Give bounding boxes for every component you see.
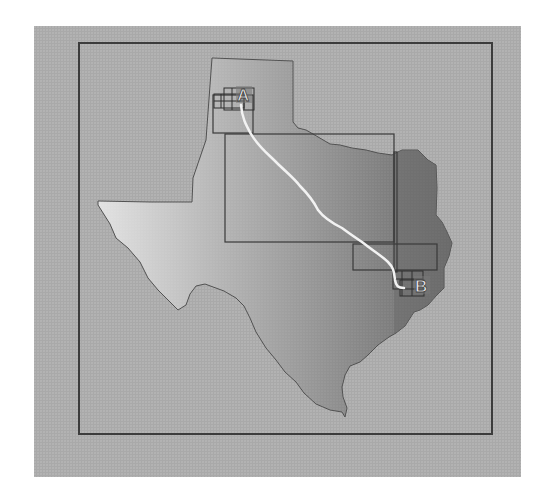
- marker-b[interactable]: B: [414, 276, 430, 296]
- map-canvas[interactable]: A B: [0, 0, 551, 500]
- marker-b-label: B: [415, 277, 427, 296]
- marker-a[interactable]: A: [236, 86, 252, 105]
- marker-a-label: A: [237, 86, 249, 105]
- state-texas: [98, 58, 452, 417]
